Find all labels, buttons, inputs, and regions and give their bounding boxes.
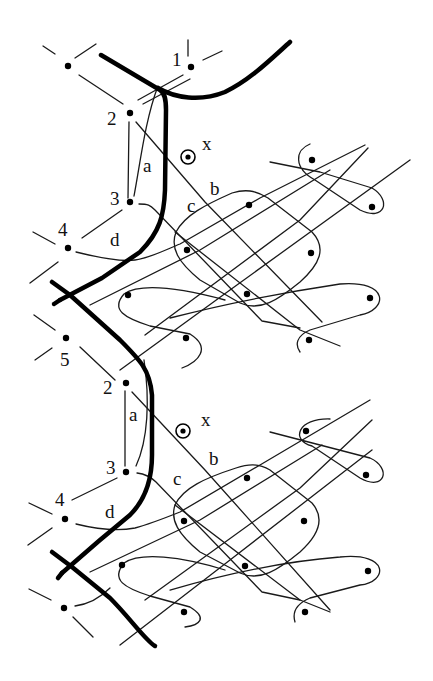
loop-bottom-right <box>170 556 380 622</box>
label-node-4: 4 <box>55 489 65 510</box>
grid-dot <box>119 562 125 568</box>
strand-c <box>139 204 300 328</box>
grid-dot <box>246 202 252 208</box>
grid-dot <box>369 204 375 210</box>
loop-bottom-left <box>119 557 225 627</box>
label-edge-a: a <box>129 404 138 425</box>
grid-dot <box>308 250 314 256</box>
strand-a-left <box>128 122 129 198</box>
strand-to-bottom-dot <box>75 588 110 606</box>
label-edge-b: b <box>209 448 219 469</box>
label-node-3: 3 <box>106 457 116 478</box>
thick-cross-lower-stub <box>58 573 62 578</box>
label-edge-a: a <box>143 155 152 176</box>
node-2-dot <box>127 110 133 116</box>
label-edge-d: d <box>110 229 120 250</box>
grid-dot <box>365 568 371 574</box>
tick-lines <box>28 478 117 637</box>
grid-dot <box>309 157 315 163</box>
label-marker-x: x <box>202 133 212 154</box>
node-1-dot <box>188 64 194 70</box>
marker-x-dot <box>185 154 190 159</box>
lower-unit: 2 3 4 a b c d x <box>28 360 383 645</box>
label-edge-c: c <box>187 195 195 216</box>
node-dot-top-left <box>65 63 71 69</box>
label-edge-c: c <box>173 468 181 489</box>
node-4-dot <box>65 245 71 251</box>
label-edge-d: d <box>105 501 115 522</box>
grid-dot <box>183 335 189 341</box>
grid-dot <box>363 472 369 478</box>
lattice-up-1 <box>145 420 372 600</box>
node-dot-bottom-left <box>61 605 67 611</box>
node-4-dot <box>62 516 68 522</box>
node-5-dot <box>63 335 69 341</box>
thick-cross-upper-stub <box>54 300 60 304</box>
label-node-3: 3 <box>110 188 120 209</box>
label-node-5: 5 <box>60 349 70 370</box>
grid-dot <box>125 292 131 298</box>
grid-dot <box>181 518 187 524</box>
grid-dot <box>302 609 308 615</box>
node-2-dot <box>123 380 129 386</box>
grid-dot <box>184 247 190 253</box>
grid-dot <box>244 291 250 297</box>
label-node-2: 2 <box>107 108 117 129</box>
label-node-1: 1 <box>172 49 182 70</box>
knot-diagram: 1 2 3 4 5 a b c d x <box>0 0 433 681</box>
marker-x-dot <box>180 428 185 433</box>
grid-dot <box>303 428 309 434</box>
grid-dot <box>242 563 248 569</box>
grid-dot <box>301 518 307 524</box>
grid-dot <box>181 609 187 615</box>
label-marker-x: x <box>201 409 211 430</box>
label-edge-b: b <box>210 178 220 199</box>
node-3-dot <box>127 199 133 205</box>
node-3-dot <box>123 469 129 475</box>
grid-dot <box>244 475 250 481</box>
label-node-2: 2 <box>103 377 113 398</box>
label-node-4: 4 <box>58 219 68 240</box>
thick-boundary-upper <box>60 55 166 300</box>
upper-unit: 1 2 3 4 5 a b c d x <box>30 40 410 380</box>
grid-dot <box>306 337 312 343</box>
grid-dot <box>367 295 373 301</box>
loop-top-right-outer <box>270 144 384 213</box>
